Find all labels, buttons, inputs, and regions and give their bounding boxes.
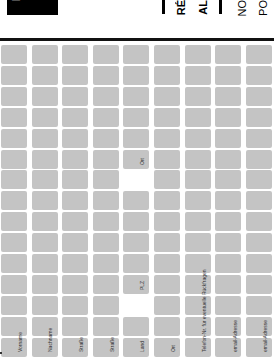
form-field-cell[interactable] [123, 317, 149, 336]
form-field-cell[interactable] [62, 150, 88, 169]
form-field-cell[interactable] [123, 150, 149, 169]
form-field-cell[interactable] [185, 191, 211, 210]
form-field-cell[interactable] [154, 129, 180, 148]
form-field-cell[interactable] [32, 87, 58, 106]
form-field-cell[interactable] [246, 191, 272, 210]
form-field-cell[interactable] [93, 233, 119, 252]
form-field-cell[interactable] [154, 275, 180, 294]
form-field-cell[interactable] [1, 254, 27, 273]
form-field-cell[interactable] [215, 150, 241, 169]
form-field-cell[interactable] [32, 129, 58, 148]
form-field-cell[interactable] [123, 254, 149, 273]
form-field-cell[interactable] [93, 296, 119, 315]
form-field-cell[interactable] [215, 212, 241, 231]
form-field-cell[interactable] [32, 108, 58, 127]
form-field-cell[interactable] [93, 45, 119, 64]
form-field-cell[interactable] [154, 254, 180, 273]
form-field-cell[interactable] [32, 317, 58, 336]
form-field-cell[interactable] [93, 191, 119, 210]
form-field-cell[interactable] [93, 150, 119, 169]
form-field-cell[interactable] [154, 170, 180, 189]
form-field-cell[interactable] [93, 170, 119, 189]
form-field-cell[interactable] [246, 66, 272, 85]
form-field-cell[interactable] [32, 170, 58, 189]
form-field-cell[interactable] [185, 212, 211, 231]
form-field-cell[interactable] [32, 66, 58, 85]
form-field-cell[interactable] [32, 212, 58, 231]
form-field-cell[interactable] [93, 87, 119, 106]
form-field-cell[interactable] [62, 66, 88, 85]
form-field-cell[interactable] [62, 233, 88, 252]
form-field-cell[interactable] [185, 170, 211, 189]
form-field-cell[interactable] [246, 275, 272, 294]
form-field-cell[interactable] [123, 233, 149, 252]
form-field-cell[interactable] [62, 275, 88, 294]
form-field-cell[interactable] [246, 87, 272, 106]
form-field-cell[interactable] [32, 338, 58, 357]
form-field-cell[interactable] [32, 296, 58, 315]
form-field-cell[interactable] [246, 212, 272, 231]
form-field-cell[interactable] [1, 87, 27, 106]
form-field-cell[interactable] [62, 129, 88, 148]
form-field-cell[interactable] [32, 191, 58, 210]
form-field-cell[interactable] [246, 150, 272, 169]
form-field-cell[interactable] [123, 212, 149, 231]
form-field-cell[interactable] [62, 191, 88, 210]
form-field-cell[interactable] [62, 45, 88, 64]
form-field-cell[interactable] [93, 108, 119, 127]
form-field-cell[interactable] [215, 275, 241, 294]
form-field-cell[interactable] [215, 254, 241, 273]
form-field-cell[interactable] [32, 254, 58, 273]
form-field-cell[interactable] [215, 129, 241, 148]
form-field-cell[interactable] [1, 296, 27, 315]
form-field-cell[interactable] [215, 191, 241, 210]
form-field-cell[interactable] [1, 338, 27, 357]
form-field-cell[interactable] [215, 233, 241, 252]
form-field-cell[interactable] [93, 317, 119, 336]
form-field-cell[interactable] [215, 45, 241, 64]
form-field-cell[interactable] [185, 108, 211, 127]
form-field-cell[interactable] [246, 45, 272, 64]
form-field-cell[interactable] [1, 170, 27, 189]
form-field-cell[interactable] [32, 275, 58, 294]
form-field-cell[interactable] [154, 191, 180, 210]
form-field-cell[interactable] [32, 150, 58, 169]
form-field-cell[interactable] [1, 66, 27, 85]
form-field-cell[interactable] [62, 317, 88, 336]
form-field-cell[interactable] [215, 170, 241, 189]
form-field-cell[interactable] [246, 233, 272, 252]
form-field-cell[interactable] [1, 317, 27, 336]
form-field-cell[interactable] [215, 87, 241, 106]
form-field-cell[interactable] [123, 191, 149, 210]
form-field-cell[interactable] [123, 108, 149, 127]
form-field-cell[interactable] [154, 150, 180, 169]
form-field-cell[interactable] [154, 233, 180, 252]
form-field-cell[interactable] [1, 212, 27, 231]
form-field-cell[interactable] [154, 317, 180, 336]
form-field-cell[interactable] [93, 212, 119, 231]
form-field-cell[interactable] [154, 45, 180, 64]
form-field-cell[interactable] [215, 108, 241, 127]
form-field-cell[interactable] [123, 66, 149, 85]
form-field-cell[interactable] [62, 170, 88, 189]
form-field-cell[interactable] [185, 129, 211, 148]
form-field-cell[interactable] [93, 254, 119, 273]
form-field-cell[interactable] [62, 108, 88, 127]
form-field-cell[interactable] [32, 233, 58, 252]
form-field-cell[interactable] [1, 150, 27, 169]
form-field-cell[interactable] [246, 170, 272, 189]
form-field-cell[interactable] [185, 66, 211, 85]
form-field-cell[interactable] [246, 296, 272, 315]
form-field-cell[interactable] [246, 129, 272, 148]
form-field-cell[interactable] [215, 66, 241, 85]
form-field-cell[interactable] [123, 45, 149, 64]
form-field-cell[interactable] [62, 212, 88, 231]
form-field-cell[interactable] [93, 66, 119, 85]
form-field-cell[interactable] [1, 45, 27, 64]
form-field-cell[interactable] [154, 296, 180, 315]
form-field-cell[interactable] [123, 129, 149, 148]
form-field-cell[interactable] [1, 191, 27, 210]
form-field-cell[interactable] [123, 275, 149, 294]
form-field-cell[interactable] [123, 338, 149, 357]
form-field-cell[interactable] [246, 254, 272, 273]
